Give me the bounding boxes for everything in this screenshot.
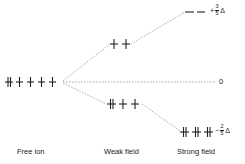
connector-weak-to-strong-upper — [131, 12, 185, 44]
connector-free-to-weak-upper — [63, 44, 110, 81]
column-label-strong-field: Strong field — [177, 147, 215, 156]
column-label-weak-field: Weak field — [104, 147, 139, 156]
splitting-diagram — [0, 0, 245, 164]
energy-label-lower: − 2 5 Δ — [215, 124, 230, 136]
free-ion-level — [5, 77, 56, 87]
delta-symbol: Δ — [220, 7, 225, 14]
delta-symbol: Δ — [225, 127, 230, 134]
energy-upper-fraction: 3 5 — [215, 4, 219, 16]
strong-field-lower-level — [180, 127, 213, 137]
connector-free-to-weak-lower — [63, 83, 106, 104]
energy-upper-sign: + — [210, 7, 214, 14]
energy-lower-fraction: 2 5 — [220, 124, 224, 136]
connector-weak-to-strong-lower — [142, 104, 180, 131]
energy-lower-sign: − — [215, 127, 219, 134]
weak-field-upper-level — [110, 39, 130, 49]
energy-label-zero: 0 — [219, 77, 223, 86]
connector-lines — [63, 12, 216, 131]
weak-field-lower-level — [107, 99, 139, 109]
energy-label-upper: + 3 5 Δ — [210, 4, 225, 16]
column-label-free-ion: Free ion — [17, 147, 45, 156]
